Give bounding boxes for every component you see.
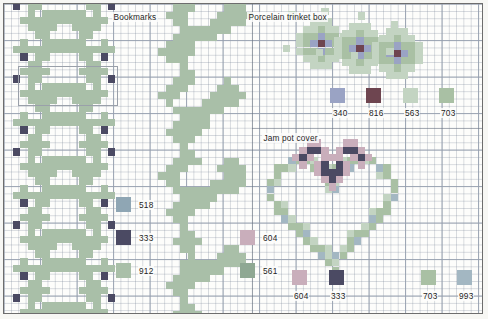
bookmark-floral-stitch — [108, 148, 115, 155]
bookmark-vine-stitch — [224, 99, 231, 106]
bookmark-vine-stitch — [173, 202, 180, 209]
jam-pot-flower-stitch — [350, 147, 357, 154]
trinket-blossom-stitch — [401, 35, 408, 42]
jam-pot-flower-stitch — [365, 154, 372, 161]
bookmark-vine-stitch — [173, 187, 180, 194]
swatch-333-left[interactable] — [116, 230, 131, 245]
bookmark-vine-stitch — [158, 172, 165, 179]
trinket-blossom-stitch — [349, 37, 356, 44]
jam-pot-flower-stitch — [329, 154, 336, 161]
swatch-703-bottom[interactable] — [421, 270, 436, 285]
swatch-518[interactable] — [116, 197, 131, 212]
bookmark-floral-stitch — [35, 236, 42, 243]
trinket-blossom-stitch — [349, 66, 356, 73]
bookmark-floral-stitch — [35, 265, 42, 272]
bookmark-vine-stitch — [202, 202, 209, 209]
bookmark-floral-stitch — [20, 272, 27, 279]
bookmark-floral-stitch — [35, 250, 42, 257]
bookmark-vine-stitch — [180, 194, 187, 201]
bookmark-floral-stitch — [72, 243, 79, 250]
bookmark-floral-stitch — [57, 192, 64, 199]
bookmark-floral-stitch — [35, 24, 42, 31]
bookmark-floral-stitch — [42, 170, 49, 177]
trinket-blossom-stitch — [379, 50, 386, 57]
bookmark-floral-stitch — [93, 24, 100, 31]
bookmark-vine-stitch — [188, 260, 195, 267]
bookmark-vine-stitch — [239, 92, 246, 99]
jam-pot-heart-stitch — [303, 237, 310, 244]
jam-pot-flower-stitch — [314, 169, 321, 176]
jam-pot-heart-stitch — [369, 223, 376, 230]
trinket-foliage-stitch — [351, 52, 358, 59]
bookmark-floral-stitch — [72, 185, 79, 192]
bookmark-floral-stitch — [20, 112, 27, 119]
bookmark-vine-stitch — [217, 99, 224, 106]
bookmark-vine-stitch — [224, 180, 231, 187]
trinket-blossom-stitch — [415, 57, 422, 64]
bookmark-floral-stitch — [42, 119, 49, 126]
bookmark-vine-stitch — [180, 143, 187, 150]
bookmark-floral-stitch — [42, 229, 49, 236]
bookmark-floral-stitch — [20, 53, 27, 60]
bookmark-vine-stitch — [188, 34, 195, 41]
swatch-340[interactable] — [330, 88, 345, 103]
swatch-561[interactable] — [240, 263, 255, 278]
jam-pot-flower-stitch — [343, 147, 350, 154]
trinket-blossom-stitch — [386, 64, 393, 71]
swatch-563[interactable] — [403, 88, 418, 103]
swatch-604-bottom[interactable] — [292, 270, 307, 285]
bookmark-vine-stitch — [166, 209, 173, 216]
bookmark-floral-stitch — [42, 104, 49, 111]
bookmark-floral-stitch — [86, 3, 93, 10]
swatch-912[interactable] — [116, 263, 131, 278]
bookmark-floral-stitch — [72, 97, 79, 104]
bookmark-vine-stitch — [180, 70, 187, 77]
swatch-993[interactable] — [457, 270, 472, 285]
jam-pot-flower-stitch — [299, 161, 306, 168]
jam-pot-flower-stitch — [321, 147, 328, 154]
bookmark-floral-stitch — [86, 97, 93, 104]
bookmark-floral-stitch — [42, 309, 49, 314]
bookmark-floral-stitch — [101, 185, 108, 192]
bookmark-floral-stitch — [86, 272, 93, 279]
bookmark-floral-stitch — [42, 163, 49, 170]
bookmark-floral-stitch — [86, 236, 93, 243]
bookmark-vine-stitch — [173, 41, 180, 48]
jam-pot-flower-stitch — [307, 147, 314, 154]
swatch-333-bottom[interactable] — [329, 270, 344, 285]
bookmark-floral-stitch — [35, 177, 42, 184]
bookmark-vine-stitch — [202, 114, 209, 121]
bookmark-vine-stitch — [188, 136, 195, 143]
bookmark-floral-stitch — [57, 90, 64, 97]
bookmark-vine-stitch — [210, 19, 217, 26]
bookmark-vine-stitch — [180, 231, 187, 238]
bookmark-floral-stitch — [35, 31, 42, 38]
bookmark-floral-stitch — [50, 302, 57, 309]
bookmark-vine-stitch — [158, 48, 165, 55]
bookmark-floral-stitch — [57, 309, 64, 314]
trinket-blossom-stitch — [394, 42, 401, 49]
bookmark-vine-stitch — [166, 282, 173, 289]
jam-pot-flower-stitch — [329, 183, 336, 190]
bookmark-floral-stitch — [86, 61, 93, 68]
bookmark-floral-stitch — [50, 192, 57, 199]
bookmark-floral-stitch — [72, 17, 79, 24]
bookmark-floral-stitch — [13, 75, 20, 82]
swatch-604-mid[interactable] — [240, 230, 255, 245]
bookmark-vine-stitch — [224, 253, 231, 260]
bookmark-floral-stitch — [35, 192, 42, 199]
jam-pot-heart-stitch — [332, 252, 339, 259]
bookmark-floral-stitch — [93, 221, 100, 228]
jam-pot-heart-inner-stitch — [303, 223, 310, 230]
bookmark-floral-stitch — [35, 134, 42, 141]
bookmark-vine-stitch — [202, 34, 209, 41]
swatch-816[interactable] — [366, 88, 381, 103]
bookmark-floral-stitch — [79, 141, 86, 148]
bookmark-vine-stitch — [173, 165, 180, 172]
bookmark-floral-stitch — [72, 170, 79, 177]
code-340: 340 — [332, 108, 348, 118]
bookmark-floral-stitch — [86, 148, 93, 155]
swatch-703-top[interactable] — [439, 88, 454, 103]
bookmark-floral-stitch — [72, 39, 79, 46]
title-jam-pot: Jam pot cover — [262, 133, 319, 143]
